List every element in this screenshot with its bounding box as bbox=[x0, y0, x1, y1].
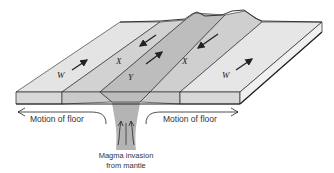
motion-right-label: Motion of floor bbox=[163, 114, 217, 124]
magma-caption-line1: Magma invasion bbox=[99, 151, 154, 160]
front-face-left bbox=[16, 92, 62, 104]
front-face-right bbox=[180, 92, 240, 104]
magma-caption-line2: from mantle bbox=[106, 161, 146, 170]
seafloor-spreading-diagram: W X Y X W Motion of floor Motion of floo… bbox=[0, 0, 334, 173]
label-right-inner-x: X bbox=[181, 56, 188, 66]
label-left-inner-x: X bbox=[115, 56, 122, 66]
motion-left-label: Motion of floor bbox=[30, 114, 84, 124]
diagram-canvas: W X Y X W Motion of floor Motion of floo… bbox=[0, 0, 334, 173]
